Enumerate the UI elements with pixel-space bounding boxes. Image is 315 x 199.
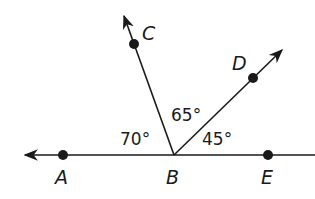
point-d bbox=[248, 73, 258, 83]
point-a bbox=[58, 150, 68, 160]
angle-abc-label: 70° bbox=[120, 129, 150, 149]
angle-diagram: A B E C D 70° 65° 45° bbox=[0, 0, 315, 199]
label-a: A bbox=[53, 166, 68, 188]
label-e: E bbox=[261, 166, 273, 188]
label-c: C bbox=[142, 22, 156, 44]
point-e bbox=[263, 150, 273, 160]
label-b: B bbox=[166, 166, 179, 188]
point-c bbox=[129, 39, 139, 49]
angle-dbe-label: 45° bbox=[202, 129, 232, 149]
angle-cbd-label: 65° bbox=[171, 105, 201, 125]
label-d: D bbox=[232, 52, 247, 74]
